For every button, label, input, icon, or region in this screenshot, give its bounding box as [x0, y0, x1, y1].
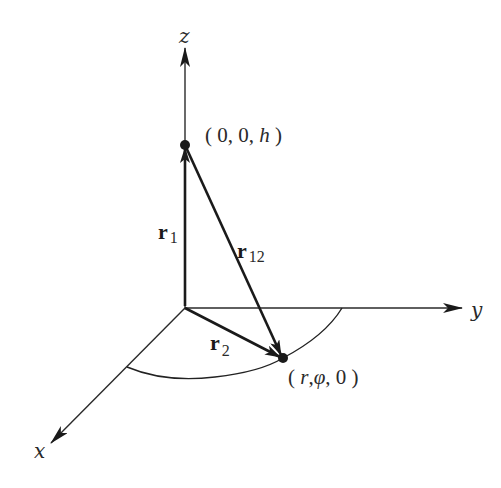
- point-top: [180, 140, 190, 150]
- y-axis-label: y: [470, 298, 483, 322]
- point-bottom-label: ( r,φ, 0 ): [288, 365, 359, 389]
- vector-r1-label: r1: [158, 219, 178, 246]
- point-top-label: ( 0, 0, h ): [205, 123, 282, 147]
- z-axis-label: z: [178, 24, 190, 48]
- vector-r12: [185, 145, 281, 355]
- x-axis-label: x: [34, 439, 45, 463]
- vector-r2-label: r2: [210, 330, 230, 359]
- coordinate-diagram: z y x ( 0, 0, h ) ( r,φ, 0 ) r1 r12 r2: [0, 0, 501, 488]
- vector-r2: [185, 308, 280, 357]
- x-axis: [51, 308, 185, 443]
- vector-r12-label: r12: [237, 238, 265, 265]
- point-bottom: [278, 353, 288, 363]
